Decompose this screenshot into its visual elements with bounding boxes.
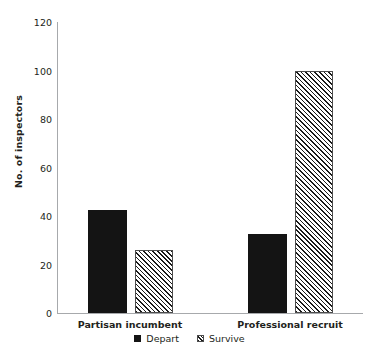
plot-area: 0 20 40 60 80 100 120 Partisan incumbent… bbox=[57, 22, 363, 313]
y-axis-line bbox=[57, 22, 58, 313]
x-axis-line bbox=[57, 313, 363, 314]
y-tick-label-0: 0 bbox=[46, 308, 52, 319]
x-axis-category-label-partisan-incumbent: Partisan incumbent bbox=[78, 319, 183, 330]
y-tick-label-80: 80 bbox=[40, 114, 52, 125]
chart-legend: Depart Survive bbox=[0, 333, 379, 344]
legend-label-survive: Survive bbox=[209, 333, 245, 344]
y-tick-label-40: 40 bbox=[40, 211, 52, 222]
legend-label-depart: Depart bbox=[146, 333, 179, 344]
y-tick-label-120: 120 bbox=[34, 17, 52, 28]
bar-partisan-incumbent-survive bbox=[135, 250, 173, 313]
bar-chart: No. of inspectors 0 20 40 60 80 100 120 … bbox=[0, 0, 379, 351]
legend-swatch-depart-icon bbox=[134, 335, 141, 342]
x-axis-category-label-professional-recruit: Professional recruit bbox=[237, 319, 343, 330]
y-tick-label-100: 100 bbox=[34, 65, 52, 76]
bar-professional-recruit-depart bbox=[248, 234, 287, 313]
y-tick-label-20: 20 bbox=[40, 259, 52, 270]
bar-professional-recruit-survive bbox=[295, 71, 333, 314]
legend-item-depart: Depart bbox=[134, 333, 179, 344]
bar-partisan-incumbent-depart bbox=[88, 210, 127, 313]
legend-item-survive: Survive bbox=[197, 333, 245, 344]
legend-swatch-survive-icon bbox=[197, 335, 204, 342]
y-tick-label-60: 60 bbox=[40, 162, 52, 173]
y-axis-title: No. of inspectors bbox=[13, 87, 24, 197]
